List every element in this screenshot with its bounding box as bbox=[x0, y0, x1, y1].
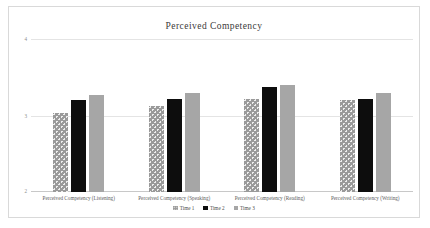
legend-label-time3: Time 3 bbox=[240, 205, 255, 211]
bar-time2-speaking[interactable] bbox=[167, 99, 182, 192]
bar-time1-listening[interactable] bbox=[53, 113, 68, 192]
x-axis-label-listening: Perceived Competency (Listening) bbox=[31, 194, 127, 202]
legend-swatch-icon-time2 bbox=[203, 206, 208, 211]
x-axis-label-reading: Perceived Competency (Reading) bbox=[222, 194, 318, 202]
plot-area: 4 3 2 bbox=[31, 39, 413, 192]
bar-time3-listening[interactable] bbox=[89, 95, 104, 192]
bar-time2-reading[interactable] bbox=[262, 87, 277, 192]
bar-time3-reading[interactable] bbox=[280, 85, 295, 192]
chart-legend: Time 1 Time 2 Time 3 bbox=[9, 205, 419, 211]
bar-time1-reading[interactable] bbox=[244, 99, 259, 192]
bar-time2-listening[interactable] bbox=[71, 100, 86, 192]
x-axis-label-writing: Perceived Competency (Writing) bbox=[318, 194, 414, 202]
legend-label-time1: Time 1 bbox=[180, 205, 195, 211]
legend-item-time1[interactable]: Time 1 bbox=[173, 205, 194, 211]
bar-time3-writing[interactable] bbox=[376, 93, 391, 192]
bar-time1-speaking[interactable] bbox=[149, 106, 164, 192]
legend-item-time2[interactable]: Time 2 bbox=[203, 205, 224, 211]
bar-time2-writing[interactable] bbox=[358, 99, 373, 192]
y-axis-tick-2: 2 bbox=[24, 188, 27, 194]
chart-title: Perceived Competency bbox=[9, 21, 419, 31]
bar-time3-speaking[interactable] bbox=[185, 93, 200, 192]
x-axis-label-speaking: Perceived Competency (Speaking) bbox=[127, 194, 223, 202]
chart-container: Perceived Competency 4 3 2 bbox=[8, 6, 420, 218]
y-axis-tick-3: 3 bbox=[24, 113, 27, 119]
bar-group-speaking bbox=[127, 39, 223, 192]
bar-group-listening bbox=[31, 39, 127, 192]
y-axis-tick-4: 4 bbox=[24, 36, 27, 42]
bar-groups bbox=[31, 39, 413, 192]
legend-label-time2: Time 2 bbox=[210, 205, 225, 211]
bar-group-reading bbox=[222, 39, 318, 192]
legend-swatch-icon-time3 bbox=[234, 206, 239, 211]
legend-swatch-icon-time1 bbox=[173, 206, 178, 211]
bar-group-writing bbox=[318, 39, 414, 192]
x-axis-labels: Perceived Competency (Listening) Perceiv… bbox=[31, 194, 413, 202]
legend-item-time3[interactable]: Time 3 bbox=[234, 205, 255, 211]
bar-time1-writing[interactable] bbox=[340, 100, 355, 192]
